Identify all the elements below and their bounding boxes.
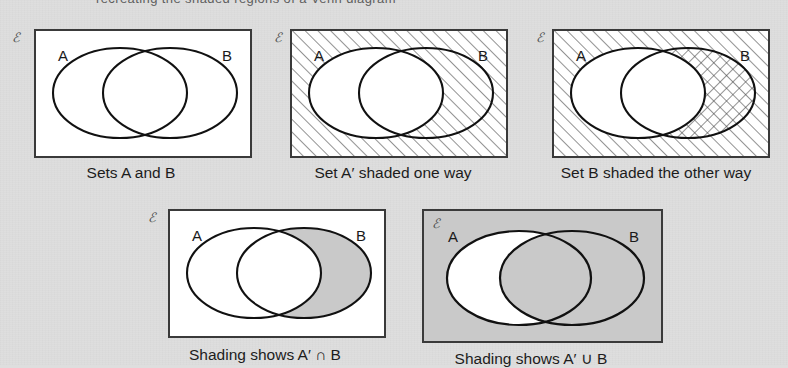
set-label-b: B: [629, 229, 639, 244]
venn-graphic: [170, 211, 386, 338]
venn-universe-box: A B: [552, 29, 770, 158]
universal-set-symbol: ℰ: [432, 217, 440, 230]
set-label-a: A: [448, 229, 458, 244]
venn-graphic: [554, 31, 770, 158]
venn-caption: Shading shows A′ ∩ B: [134, 346, 396, 364]
venn-figure-sets-a-and-b: ℰ A B Sets A and B: [0, 26, 262, 176]
venn-figure-set-b-other-way: ℰ A B Set: [524, 26, 788, 176]
universal-set-symbol: ℰ: [12, 31, 20, 44]
venn-graphic: [424, 211, 663, 343]
venn-caption: Set B shaded the other way: [524, 164, 788, 182]
set-label-a: A: [576, 48, 586, 63]
set-label-a: A: [314, 48, 324, 63]
venn-figure-a-complement-intersect-b: ℰ A B Shading shows A′ ∩ B: [134, 205, 396, 360]
venn-caption: Sets A and B: [0, 164, 262, 182]
venn-caption: Shading shows A′ ∪ B: [400, 350, 662, 368]
venn-figure-a-complement-union-b: ℰ A B Shading shows A′ ∪ B: [400, 205, 662, 360]
ellipse-a: [53, 48, 187, 138]
set-label-b: B: [478, 48, 488, 63]
venn-figure-set-a-complement: ℰ A B Set A′ shaded one way: [262, 26, 524, 176]
universal-set-symbol: ℰ: [148, 211, 156, 224]
venn-universe-box: A B: [168, 209, 386, 338]
venn-caption: Set A′ shaded one way: [262, 164, 524, 182]
universal-set-symbol: ℰ: [274, 31, 282, 44]
set-label-a: A: [192, 228, 202, 243]
venn-universe-box: A B: [422, 209, 663, 343]
ellipse-b: [103, 48, 237, 138]
venn-graphic: [292, 31, 508, 158]
set-label-b: B: [222, 48, 232, 63]
set-label-b: B: [740, 48, 750, 63]
venn-graphic: [36, 31, 252, 158]
venn-universe-box: A B: [34, 29, 252, 158]
cut-off-heading-sliver: recreating the shaded regions of a Venn …: [0, 0, 788, 6]
set-label-a: A: [58, 48, 68, 63]
universal-set-symbol: ℰ: [536, 31, 544, 44]
venn-universe-box: A B: [290, 29, 508, 158]
set-label-b: B: [356, 228, 366, 243]
cut-off-heading-text: recreating the shaded regions of a Venn …: [96, 0, 396, 5]
